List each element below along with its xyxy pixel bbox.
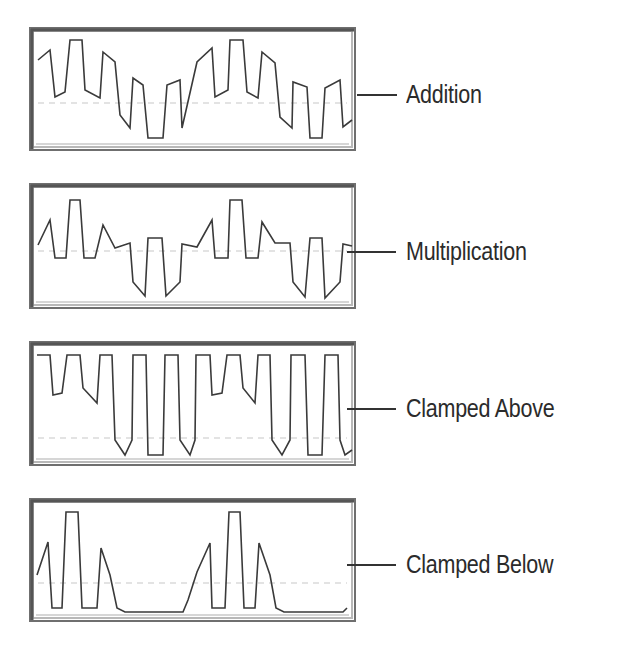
leader-line-multiplication — [347, 251, 396, 253]
waveform-panel-clamped-above — [30, 342, 355, 465]
label-addition: Addition — [406, 80, 482, 109]
label-multiplication: Multiplication — [406, 237, 527, 266]
waveform-panel-clamped-below — [30, 499, 355, 621]
label-clamped-below: Clamped Below — [406, 550, 553, 579]
leader-line-addition — [357, 94, 397, 96]
leader-line-clamped-above — [347, 408, 396, 410]
label-clamped-above: Clamped Above — [406, 394, 554, 423]
waveform-panel-addition — [30, 28, 355, 150]
waveform-panel-multiplication — [30, 184, 355, 308]
leader-line-clamped-below — [347, 564, 396, 566]
figure: Addition Multiplication Clamped Above Cl… — [0, 0, 643, 651]
